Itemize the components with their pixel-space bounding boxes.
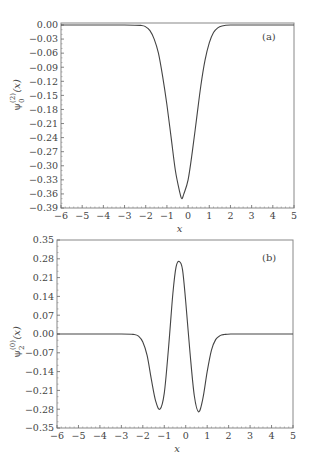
y-tick-label: −0.24 bbox=[29, 132, 58, 143]
x-tick-label: −4 bbox=[93, 430, 107, 441]
x-tick-label: −3 bbox=[118, 210, 132, 221]
x-tick-label: 4 bbox=[269, 430, 275, 441]
x-tick-label: 2 bbox=[227, 210, 233, 221]
figure: −6−5−4−3−2−10123450.00−0.03−0.06−0.09−0.… bbox=[0, 0, 310, 473]
y-label-sub: 2 bbox=[18, 346, 26, 350]
x-tick-label: 1 bbox=[206, 210, 212, 221]
y-label-sub: 0 bbox=[18, 99, 26, 103]
y-tick-label: 0.07 bbox=[33, 310, 54, 321]
y-tick-label: −0.21 bbox=[25, 385, 54, 396]
y-tick-label: −0.28 bbox=[25, 404, 54, 415]
chart-panel-b: −6−5−4−3−2−10123450.350.280.210.140.070.… bbox=[9, 234, 296, 454]
y-tick-label: −0.07 bbox=[25, 347, 54, 358]
y-tick-label: −0.18 bbox=[29, 104, 58, 115]
x-tick-label: 3 bbox=[247, 430, 253, 441]
x-tick-label: −5 bbox=[71, 430, 85, 441]
y-tick-label: 0.28 bbox=[33, 253, 54, 264]
chart-panel-a: −6−5−4−3−2−10123450.00−0.03−0.06−0.09−0.… bbox=[9, 19, 297, 234]
y-tick-label: −0.21 bbox=[29, 118, 58, 129]
x-tick-label: −4 bbox=[96, 210, 110, 221]
x-tick-label: −1 bbox=[160, 210, 174, 221]
data-series-line bbox=[61, 25, 294, 199]
x-tick-label: 0 bbox=[183, 430, 189, 441]
y-label-sup: (0) bbox=[9, 340, 17, 350]
x-tick-label: 0 bbox=[185, 210, 191, 221]
y-tick-label: 0.14 bbox=[33, 291, 54, 302]
x-tick-label: 1 bbox=[204, 430, 210, 441]
x-tick-label: −2 bbox=[139, 210, 153, 221]
x-axis-label: x bbox=[177, 223, 183, 234]
y-label-arg: (x) bbox=[11, 326, 22, 340]
y-tick-label: −0.33 bbox=[29, 174, 58, 185]
x-tick-label: −5 bbox=[75, 210, 89, 221]
x-tick-label: 4 bbox=[270, 210, 276, 221]
y-tick-label: 0.21 bbox=[33, 272, 54, 283]
panel-label: (b) bbox=[262, 252, 276, 263]
y-axis-label: ψ(0)2(x) bbox=[9, 326, 26, 358]
y-label-sup: (2) bbox=[9, 93, 17, 103]
y-label-arg: (x) bbox=[11, 79, 22, 93]
y-tick-label: −0.36 bbox=[29, 188, 58, 199]
x-tick-label: −2 bbox=[136, 430, 150, 441]
y-tick-label: −0.12 bbox=[29, 76, 58, 87]
x-tick-label: −3 bbox=[114, 430, 128, 441]
x-tick-label: 5 bbox=[290, 430, 296, 441]
y-tick-label: −0.35 bbox=[25, 422, 54, 433]
y-tick-label: 0.00 bbox=[37, 19, 58, 30]
y-tick-label: −0.27 bbox=[29, 146, 58, 157]
y-tick-label: −0.06 bbox=[29, 47, 58, 58]
panel-label: (a) bbox=[262, 31, 276, 42]
y-tick-label: −0.14 bbox=[25, 366, 54, 377]
y-tick-label: 0.35 bbox=[33, 234, 54, 245]
x-tick-label: −1 bbox=[157, 430, 171, 441]
y-tick-label: −0.09 bbox=[29, 62, 58, 73]
x-axis-label: x bbox=[174, 443, 180, 454]
y-tick-label: −0.39 bbox=[29, 202, 58, 213]
data-series-line bbox=[57, 261, 293, 412]
y-tick-label: −0.15 bbox=[29, 90, 58, 101]
y-tick-label: 0.00 bbox=[33, 328, 54, 339]
y-tick-label: −0.30 bbox=[29, 160, 58, 171]
x-tick-label: 5 bbox=[291, 210, 297, 221]
x-tick-label: 3 bbox=[249, 210, 255, 221]
x-tick-label: 2 bbox=[226, 430, 232, 441]
y-axis-label: ψ(2)0(x) bbox=[9, 79, 26, 111]
y-tick-label: −0.03 bbox=[29, 33, 58, 44]
